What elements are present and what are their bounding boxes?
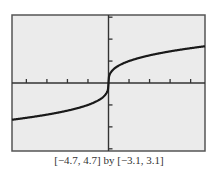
window-caption: [−4.7, 4.7] by [−3.1, 3.1] [0,153,218,167]
graph-window [0,0,218,152]
